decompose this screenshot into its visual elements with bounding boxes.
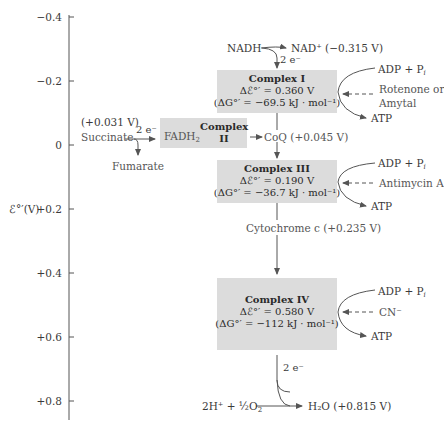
succinate-electrons: 2 e⁻ bbox=[136, 124, 157, 136]
oxygen-electrons: 2 e⁻ bbox=[283, 362, 304, 374]
adp-sub: i bbox=[424, 69, 426, 77]
fadh2-label: FADH2 bbox=[164, 130, 200, 146]
succinate-label: Succinate bbox=[81, 131, 134, 143]
complex-4-atp: ATP bbox=[371, 330, 392, 342]
complex-3-inhibitor: Antimycin A bbox=[379, 177, 444, 189]
complex-4-title: Complex IV bbox=[212, 294, 342, 306]
complex-3-atp: ATP bbox=[371, 200, 392, 212]
fumarate-label: Fumarate bbox=[112, 160, 164, 172]
water-product: H₂O (+0.815 V) bbox=[308, 400, 391, 412]
adp-label: ADP + P bbox=[378, 63, 424, 75]
y-axis bbox=[69, 15, 74, 420]
tick-label: +0.6 bbox=[22, 331, 62, 343]
complex-1-adp: ADP + Pi bbox=[378, 63, 426, 79]
tick-label: −0.2 bbox=[22, 75, 62, 87]
tick-label: 0 bbox=[22, 139, 62, 151]
cytochrome-c-label: Cytochrome c (+0.235 V) bbox=[246, 222, 381, 234]
coq-label: CoQ (+0.045 V) bbox=[264, 131, 348, 143]
fadh-text: FADH bbox=[164, 130, 196, 142]
oxygen-reactant: 2H⁺ + ½O2 bbox=[202, 400, 262, 416]
tick-label: +0.8 bbox=[22, 395, 62, 407]
complex-4-text: Complex IV Δℰ°′ = 0.580 V (ΔG°′ = −112 k… bbox=[212, 294, 342, 330]
complex-4-inhibitor: CN⁻ bbox=[379, 306, 402, 318]
complex-1-delta-g: (ΔG°′ = −69.5 kJ · mol⁻¹) bbox=[212, 97, 342, 109]
complex-4-adp: ADP + Pi bbox=[378, 285, 426, 301]
complex-1-atp: ATP bbox=[371, 112, 392, 124]
tick-label: −0.4 bbox=[22, 11, 62, 23]
axis-label: ℰ°′(V) bbox=[9, 203, 39, 215]
complex-2-title-line1: Complex bbox=[200, 121, 248, 133]
complex-1-inhibitor-2: Amytal bbox=[379, 97, 416, 109]
nadh-electrons: 2 e⁻ bbox=[280, 54, 301, 66]
complex-1-inhibitor: Rotenone or bbox=[379, 83, 444, 95]
complex-3-delta-g: (ΔG°′ = −36.7 kJ · mol⁻¹) bbox=[212, 187, 342, 199]
complex-2-title-line2: II bbox=[200, 133, 248, 145]
complex-3-title: Complex III bbox=[212, 163, 342, 175]
adp-label: ADP + P bbox=[378, 157, 424, 169]
succinate-potential: (+0.031 V) bbox=[81, 116, 139, 128]
adp-label: ADP + P bbox=[378, 285, 424, 297]
complex-3-adp: ADP + Pi bbox=[378, 157, 426, 173]
complex-1-delta-e: Δℰ°′ = 0.360 V bbox=[212, 85, 342, 97]
complex-1-title: Complex I bbox=[212, 73, 342, 85]
oxygen-reactant-text: 2H⁺ + ½O bbox=[202, 400, 258, 412]
nadh-label: NADH bbox=[227, 42, 261, 54]
complex-1-text: Complex I Δℰ°′ = 0.360 V (ΔG°′ = −69.5 k… bbox=[212, 73, 342, 109]
complex-3-delta-e: Δℰ°′ = 0.190 V bbox=[212, 175, 342, 187]
nad-product: NAD⁺ (−0.315 V) bbox=[291, 42, 383, 54]
adp-sub: i bbox=[424, 163, 426, 171]
complex-4-delta-e: Δℰ°′ = 0.580 V bbox=[212, 306, 342, 318]
tick-label: +0.4 bbox=[22, 267, 62, 279]
complex-4-delta-g: (ΔG°′ = −112 kJ · mol⁻¹) bbox=[212, 318, 342, 330]
complex-2-title: Complex II bbox=[200, 121, 248, 145]
oxygen-sub: 2 bbox=[258, 406, 262, 414]
complex-3-text: Complex III Δℰ°′ = 0.190 V (ΔG°′ = −36.7… bbox=[212, 163, 342, 199]
adp-sub: i bbox=[424, 291, 426, 299]
